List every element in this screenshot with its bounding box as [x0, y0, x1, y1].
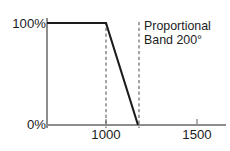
- series-output-line: [47, 23, 138, 125]
- x-axis-tick-label-1500: 1500: [182, 128, 211, 141]
- y-axis-tick-label-100: 100%: [12, 17, 46, 30]
- proportional-band-chart: 100% 0% 1000 1500 Proportional Band 200°: [0, 0, 230, 151]
- proportional-band-annotation: Proportional Band 200°: [144, 19, 211, 47]
- y-axis-tick-label-0: 0%: [27, 118, 46, 131]
- annotation-line-2: Band 200°: [144, 33, 211, 47]
- annotation-line-1: Proportional: [144, 19, 211, 33]
- x-axis-tick-label-1000: 1000: [91, 128, 120, 141]
